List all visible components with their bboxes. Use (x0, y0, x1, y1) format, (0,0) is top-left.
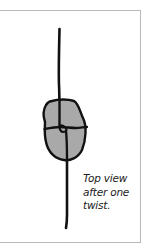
caption-line-2: after one (83, 186, 139, 200)
lower-stem (66, 159, 67, 228)
caption-line-1: Top view (83, 172, 139, 186)
figure-caption: Top view after one twist. (83, 172, 139, 213)
twisted-blob (44, 100, 86, 161)
caption-line-3: twist. (83, 199, 139, 213)
